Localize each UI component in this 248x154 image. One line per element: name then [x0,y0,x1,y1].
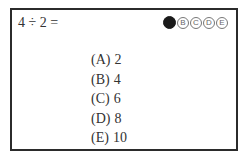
choice-label: (E) [91,130,109,145]
choice-value: 4 [114,72,121,87]
answer-bubble-a[interactable]: A [163,16,176,29]
choice-list: (A)2 (B)4 (C)6 (D)8 (E)10 [91,50,127,148]
question-card: 4 ÷ 2 = A B C D E (A)2 (B)4 (C)6 (D)8 (E… [10,8,238,151]
choice-e: (E)10 [91,128,127,148]
answer-bubble-e[interactable]: E [216,17,228,29]
choice-label: (C) [91,91,110,106]
choice-value: 6 [114,91,121,106]
choice-d: (D)8 [91,109,127,129]
choice-value: 10 [113,130,127,145]
choice-label: (B) [91,72,110,87]
answer-bubble-c[interactable]: C [190,17,202,29]
question-text: 4 ÷ 2 = [18,15,58,31]
choice-label: (D) [91,111,110,126]
choice-value: 2 [114,52,121,67]
answer-bubble-b[interactable]: B [177,17,189,29]
answer-bubble-d[interactable]: D [203,17,215,29]
choice-label: (A) [91,52,110,67]
choice-c: (C)6 [91,89,127,109]
choice-a: (A)2 [91,50,127,70]
choice-b: (B)4 [91,70,127,90]
answer-bubble-row: A B C D E [162,16,228,29]
choice-value: 8 [114,111,121,126]
